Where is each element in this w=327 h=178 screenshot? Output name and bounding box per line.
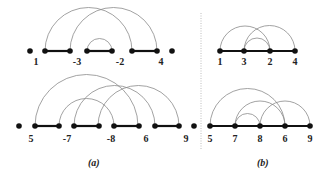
panel-a-top-node — [154, 48, 160, 54]
panel-a-top-node — [129, 48, 135, 54]
panel-a-top-node — [42, 48, 48, 54]
panel-b-top-node — [267, 48, 273, 54]
panel-a-bottom-label: 6 — [144, 133, 149, 144]
panel-a-bottom-arc — [98, 86, 179, 127]
panel-b-bottom-node — [307, 123, 313, 129]
panel-b-top-node — [292, 48, 298, 54]
panel-b-top-label: 1 — [218, 56, 223, 67]
panel-a-bottom-node — [56, 123, 62, 129]
panel-a-bottom-node — [191, 123, 197, 129]
panel-a-top-node — [84, 48, 90, 54]
panel-a-top-label: -2 — [116, 56, 124, 67]
panel-b-top-label: 4 — [293, 56, 298, 67]
panel-a-top-arc — [70, 8, 157, 52]
panel-a-bottom-label: 5 — [29, 133, 34, 144]
panel-a-top-node — [27, 48, 33, 54]
panel-b-top-arc — [220, 26, 270, 51]
panel-a-bottom-label: -8 — [107, 133, 115, 144]
panel-b-top-node — [217, 48, 223, 54]
panel-a-bottom-node — [71, 123, 77, 129]
caption-b: (b) — [257, 157, 269, 169]
panel-a-top-node — [67, 48, 73, 54]
panel-b-top-node — [241, 48, 247, 54]
panel-b-top-arc — [244, 38, 270, 51]
panel-a-bottom-node — [176, 123, 182, 129]
panel-a-bottom-arc — [74, 86, 155, 127]
panel-a-bottom-label: -7 — [63, 133, 71, 144]
panel-b-bottom-label: 9 — [308, 133, 313, 144]
panel-a-bottom-node — [32, 123, 38, 129]
panel-b-bottom-label: 5 — [208, 133, 213, 144]
panel-a-top-label: -3 — [73, 56, 81, 67]
panel-b-bottom-arc — [235, 114, 260, 127]
diagram-canvas: 1-3-24 5-7-869 1324 57869 (a) (b) — [0, 0, 327, 178]
panel-b-bottom-node — [282, 123, 288, 129]
panel-b-bottom-label: 6 — [283, 133, 288, 144]
panel-b-bottom-label: 8 — [258, 133, 263, 144]
panel-b-bottom-node — [257, 123, 263, 129]
panel-a-bottom-label: 9 — [184, 133, 189, 144]
panel-a-bottom-node — [16, 123, 22, 129]
panel-a-bottom-diagram: 5-7-869 — [16, 75, 197, 145]
panel-a-bottom-node — [136, 123, 142, 129]
panel-b-top-label: 2 — [268, 56, 273, 67]
panel-b-bottom-node — [232, 123, 238, 129]
caption-a: (a) — [88, 157, 100, 169]
panel-a-top-node — [109, 48, 115, 54]
panel-a-bottom-arc — [35, 75, 138, 127]
panel-b-bottom-node — [207, 123, 213, 129]
panel-a-bottom-node — [111, 123, 117, 129]
panel-b-bottom-arc — [210, 89, 285, 126]
panel-a-top-diagram: 1-3-24 — [27, 8, 175, 68]
panel-b-top-label: 3 — [242, 56, 247, 67]
panel-a-bottom-node — [96, 123, 102, 129]
panel-b-bottom-label: 7 — [233, 133, 238, 144]
panel-a-top-arc — [87, 39, 112, 52]
panel-a-top-label: 1 — [34, 56, 39, 67]
panel-a-top-label: 4 — [159, 56, 164, 67]
panel-a-top-node — [169, 48, 175, 54]
panel-b-bottom-diagram: 57869 — [207, 89, 313, 144]
panel-a-bottom-node — [152, 123, 158, 129]
panel-b-top-diagram: 1324 — [217, 26, 298, 68]
